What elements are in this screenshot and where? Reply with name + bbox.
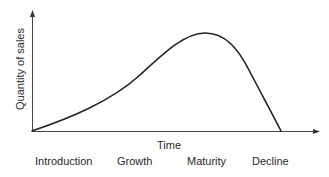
stage-label-introduction: Introduction — [35, 155, 92, 167]
stage-label-maturity: Maturity — [187, 155, 226, 167]
y-axis-arrow-icon — [30, 10, 35, 17]
sales-curve — [32, 33, 281, 131]
y-axis-label: Quantity of sales — [14, 19, 26, 119]
stage-label-growth: Growth — [117, 155, 152, 167]
stage-label-decline: Decline — [252, 155, 289, 167]
x-axis-arrow-icon — [313, 129, 320, 134]
x-axis-label: Time — [157, 139, 181, 151]
